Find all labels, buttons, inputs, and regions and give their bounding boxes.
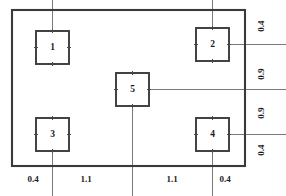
unit-box-label-3: 3	[50, 129, 55, 139]
dimension-label-bottom-1: 1.1	[80, 174, 92, 184]
unit-box-4[interactable]: 4	[194, 116, 231, 153]
dimension-label-bottom-3: 0.4	[219, 174, 231, 184]
unit-box-3[interactable]: 3	[34, 116, 71, 153]
vertical-dimension-chain: 0.40.90.90.4	[256, 20, 266, 156]
dimension-label-right-2: 0.9	[256, 107, 266, 119]
dimension-label-right-1: 0.9	[256, 68, 266, 80]
horizontal-dimension-chain: 0.41.11.10.4	[27, 174, 231, 184]
dimension-label-bottom-0: 0.4	[27, 174, 39, 184]
dimension-label-right-3: 0.4	[256, 144, 266, 156]
unit-box-2[interactable]: 2	[194, 26, 231, 63]
engineering-drawing: 125340.41.11.10.40.40.90.90.4	[0, 0, 286, 196]
unit-box-label-5: 5	[130, 84, 135, 94]
unit-box-label-4: 4	[210, 129, 215, 139]
drawing-canvas: 125340.41.11.10.40.40.90.90.4	[0, 0, 286, 196]
unit-box-label-2: 2	[210, 39, 215, 49]
unit-box-5[interactable]: 5	[114, 71, 151, 108]
unit-box-1[interactable]: 1	[34, 29, 71, 66]
unit-box-label-1: 1	[50, 42, 55, 52]
dimension-label-right-0: 0.4	[256, 20, 266, 32]
dimension-label-bottom-2: 1.1	[166, 174, 178, 184]
